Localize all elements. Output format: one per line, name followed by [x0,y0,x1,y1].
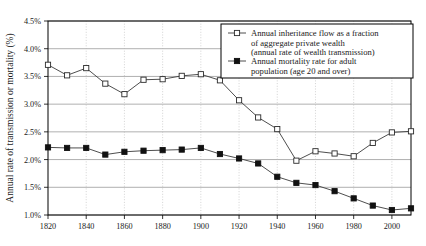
data-point-marker [389,130,394,135]
x-tick-label: 1940 [269,222,285,231]
data-point-marker [294,180,299,185]
data-point-marker [408,206,413,211]
data-point-marker [65,73,70,78]
data-point-marker [351,154,356,159]
data-point-marker [122,149,127,154]
data-point-marker [332,151,337,156]
y-tick-label: 3.0% [24,100,41,109]
data-point-marker [45,145,50,150]
data-point-marker [84,66,89,71]
data-point-marker [103,81,108,86]
y-tick-label: 2.0% [24,156,41,165]
y-tick-label: 1.0% [24,211,41,220]
data-point-marker [103,152,108,157]
x-tick-label: 2000 [384,222,400,231]
data-point-marker [122,92,127,97]
x-tick-label: 1980 [345,222,361,231]
data-point-marker [313,182,318,187]
data-point-marker [198,72,203,77]
legend-label-mortality: Annual mortality rate for adult [251,56,357,66]
x-tick-label: 1900 [193,222,209,231]
data-point-marker [408,129,413,134]
x-tick-label: 1860 [116,222,132,231]
data-point-marker [389,207,394,212]
x-tick-label: 1920 [231,222,247,231]
legend-label-inheritance: Annual inheritance flow as a fraction [251,28,379,38]
legend-swatch [234,30,239,35]
x-tick-label: 1840 [78,222,94,231]
y-tick-label: 1.5% [24,183,41,192]
data-point-marker [217,151,222,156]
data-point-marker [370,140,375,145]
data-point-marker [179,73,184,78]
y-tick-label: 3.5% [24,72,41,81]
legend-swatch [234,58,239,63]
x-tick-label: 1880 [154,222,170,231]
data-point-marker [294,158,299,163]
data-point-marker [256,115,261,120]
data-point-marker [370,203,375,208]
data-point-marker [256,161,261,166]
data-point-marker [160,148,165,153]
data-point-marker [65,145,70,150]
y-tick-label: 4.5% [24,17,41,26]
data-point-marker [179,147,184,152]
data-point-marker [236,98,241,103]
legend-label-inheritance: of aggregate private wealth [251,38,345,48]
data-point-marker [236,156,241,161]
data-point-marker [141,148,146,153]
data-point-marker [332,189,337,194]
x-tick-label: 1960 [307,222,323,231]
x-axis-tick-labels: 1820184018601880190019201940196019802000 [40,222,400,231]
chart-legend: Annual inheritance flow as a fractionof … [221,24,413,78]
legend-label-mortality: population (age 20 and over) [251,66,350,76]
inheritance-mortality-line-chart: 1.0%1.5%2.0%2.5%3.0%3.5%4.0%4.5% 1820184… [0,0,426,246]
data-point-marker [275,174,280,179]
y-axis-tick-labels: 1.0%1.5%2.0%2.5%3.0%3.5%4.0%4.5% [24,17,41,220]
y-axis-title: Annual rate of transmission or mortality… [5,33,16,202]
y-tick-label: 2.5% [24,128,41,137]
data-point-marker [84,145,89,150]
data-point-marker [141,77,146,82]
x-tick-label: 1820 [40,222,56,231]
data-point-marker [275,126,280,131]
data-point-marker [313,149,318,154]
data-point-marker [160,77,165,82]
chart-figure: 1.0%1.5%2.0%2.5%3.0%3.5%4.0%4.5% 1820184… [0,0,426,246]
data-point-marker [198,145,203,150]
data-point-marker [351,196,356,201]
data-series-layer [45,62,413,212]
series-line-0 [48,65,411,161]
y-tick-label: 4.0% [24,45,41,54]
data-point-marker [45,62,50,67]
